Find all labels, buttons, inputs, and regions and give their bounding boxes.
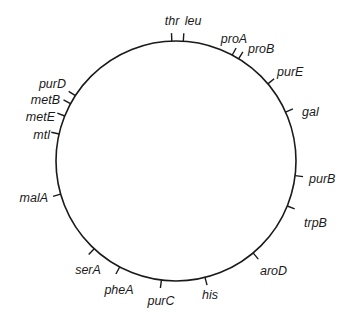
genetic-map: thrleuproAproBpurEgalpurBtrpBaroDhispurC… — [0, 0, 352, 323]
gene-label-purC: purC — [146, 294, 175, 308]
gene-label-malA: malA — [20, 191, 48, 205]
gene-label-purB: purB — [308, 172, 335, 186]
gene-tick-purD — [69, 91, 76, 95]
gene-label-purE: purE — [276, 65, 304, 79]
gene-labels: thrleuproAproBpurEgalpurBtrpBaroDhispurC… — [20, 14, 336, 308]
gene-label-purD: purD — [38, 77, 66, 91]
gene-tick-his — [205, 277, 207, 285]
gene-tick-metE — [57, 113, 64, 116]
gene-tick-mtl — [51, 132, 59, 134]
gene-tick-purE — [268, 79, 274, 84]
chromosome-circle — [56, 41, 296, 281]
gene-label-proA: proA — [220, 32, 247, 46]
gene-label-pheA: pheA — [103, 283, 133, 297]
gene-tick-pheA — [116, 267, 120, 274]
gene-tick-serA — [89, 249, 95, 255]
gene-tick-trpB — [287, 206, 294, 209]
gene-label-trpB: trpB — [304, 216, 327, 230]
gene-label-proB: proB — [247, 42, 274, 56]
gene-tick-proB — [239, 52, 243, 59]
gene-label-leu: leu — [185, 14, 202, 28]
gene-label-gal: gal — [302, 105, 320, 119]
gene-tick-metB — [64, 100, 71, 104]
gene-tick-purC — [160, 280, 161, 288]
gene-ticks — [51, 33, 303, 288]
gene-label-mtl: mtl — [33, 128, 51, 142]
gene-label-serA: serA — [75, 263, 101, 277]
gene-tick-proA — [232, 48, 236, 55]
gene-tick-malA — [53, 194, 61, 196]
gene-label-his: his — [202, 288, 218, 302]
gene-tick-leu — [183, 33, 184, 41]
gene-tick-purB — [295, 176, 303, 177]
gene-label-metB: metB — [31, 93, 60, 107]
gene-label-thr: thr — [165, 14, 180, 28]
gene-label-metE: metE — [26, 110, 56, 124]
gene-tick-aroD — [253, 253, 258, 259]
gene-tick-gal — [286, 109, 293, 112]
gene-label-aroD: aroD — [260, 264, 287, 278]
